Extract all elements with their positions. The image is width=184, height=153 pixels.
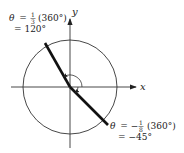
y-axis-label: y [71, 6, 78, 17]
svg-text:θ =: θ = [9, 13, 27, 23]
svg-text:= −45°: = −45° [118, 132, 152, 142]
svg-text:(360°): (360°) [147, 121, 176, 131]
terminal-side-120 [45, 43, 70, 87]
svg-text:= 120°: = 120° [14, 24, 46, 34]
svg-text:(360°): (360°) [38, 13, 67, 23]
svg-text:θ = −: θ = − [110, 121, 138, 131]
label-neg45: θ = − 1 8 (360°) = −45° [110, 119, 176, 142]
svg-text:1: 1 [139, 119, 143, 126]
x-axis-label: x [140, 81, 146, 92]
svg-text:1: 1 [31, 11, 35, 18]
label-120: θ = 1 3 (360°) = 120° [9, 11, 67, 34]
unit-circle-diagram: x y θ = 1 3 (360°) = 120° θ = − 1 8 (360… [0, 0, 184, 153]
arc-neg45 [76, 87, 78, 93]
